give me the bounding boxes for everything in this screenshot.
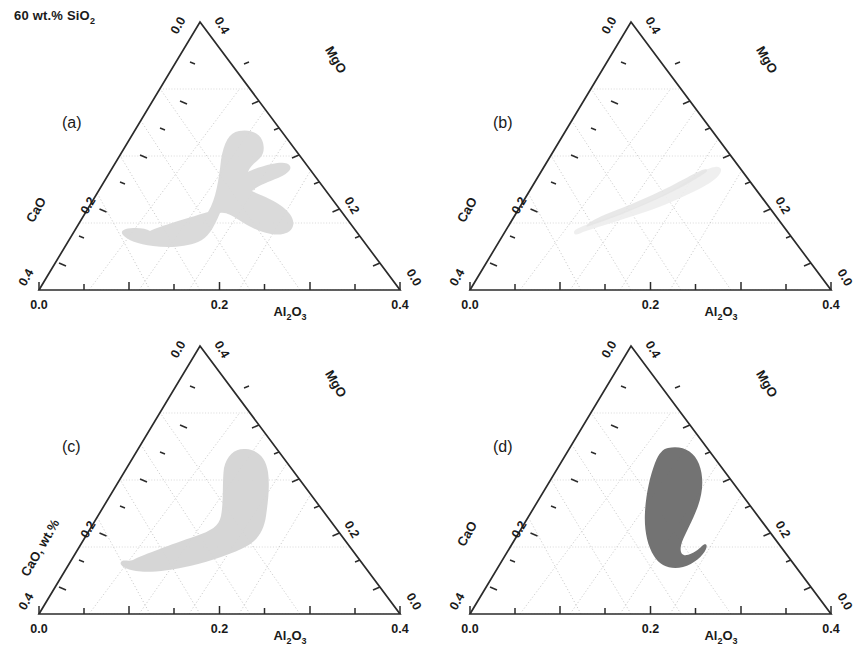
- bottom-axis-label-d: Al2O3: [704, 628, 737, 646]
- left-corner-value-c: 0.4: [16, 590, 37, 612]
- right-corner-value-a: 0.0: [403, 267, 424, 289]
- bottom-tick-0-b: 0.0: [461, 298, 478, 312]
- right-tick-label-d: 0.2: [772, 519, 793, 541]
- bottom-ticks-a: [39, 282, 400, 290]
- composition-field-b: [574, 167, 721, 235]
- left-tick-label-c: 0.2: [78, 518, 99, 540]
- right-axis-label-c: MgO: [322, 367, 349, 400]
- right-corner-value-d: 0.0: [834, 591, 855, 613]
- grid-lines-b: [472, 89, 832, 290]
- panel-label-b: (b): [493, 114, 513, 131]
- bottom-tick-1-a: 0.2: [211, 298, 228, 312]
- bottom-tick-0-d: 0.0: [461, 622, 478, 636]
- bottom-ticks-b: [470, 282, 831, 290]
- left-ticks-d: [490, 386, 626, 590]
- bottom-tick-1-c: 0.2: [211, 622, 228, 636]
- ternary-plot-a: (a) 0.0 0.4 0.4 0.0 0.2 0.2 CaO MgO 0.0 …: [0, 0, 430, 324]
- left-axis-label-b: CaO: [454, 194, 480, 225]
- left-axis-label-a: CaO: [23, 194, 49, 225]
- bottom-tick-2-b: 0.4: [822, 298, 839, 312]
- right-corner-value-c: 0.0: [403, 591, 424, 613]
- left-tick-label-b: 0.2: [509, 194, 530, 216]
- bottom-axis-label-b: Al2O3: [704, 304, 737, 322]
- bottom-tick-2-c: 0.4: [391, 622, 408, 636]
- left-axis-label-d: CaO: [454, 518, 480, 549]
- panel-label-a: (a): [62, 114, 82, 131]
- ternary-plot-c: (c) 0.0 0.4 0.4 0.0 0.2 0.2 CaO, wt.% Mg…: [0, 324, 430, 648]
- left-corner-value-a: 0.4: [16, 266, 37, 288]
- bottom-tick-2-d: 0.4: [822, 622, 839, 636]
- apex-right-value-b: 0.4: [642, 15, 663, 37]
- left-tick-label-a: 0.2: [78, 194, 99, 216]
- panel-b: (b) 0.0 0.4 0.4 0.0 0.2 0.2 CaO MgO 0.0 …: [431, 0, 861, 324]
- apex-left-value-a: 0.0: [168, 14, 189, 36]
- bottom-tick-2-a: 0.4: [391, 298, 408, 312]
- apex-right-value-a: 0.4: [211, 15, 232, 37]
- ternary-plot-b: (b) 0.0 0.4 0.4 0.0 0.2 0.2 CaO MgO 0.0 …: [431, 0, 861, 324]
- left-corner-value-b: 0.4: [447, 266, 468, 288]
- panel-label-c: (c): [62, 438, 81, 455]
- bottom-axis-label-c: Al2O3: [273, 628, 306, 646]
- grid-lines-c: [41, 413, 401, 614]
- composition-field-d: [645, 447, 707, 568]
- bottom-axis-label-a: Al2O3: [273, 304, 306, 322]
- apex-right-value-d: 0.4: [642, 339, 663, 361]
- bottom-tick-1-d: 0.2: [642, 622, 659, 636]
- ternary-plot-d: (d) 0.0 0.4 0.4 0.0 0.2 0.2 CaO MgO 0.0 …: [431, 324, 861, 648]
- left-ticks-b: [490, 62, 626, 266]
- bottom-tick-0-c: 0.0: [30, 622, 47, 636]
- panel-label-d: (d): [493, 438, 513, 455]
- right-axis-label-d: MgO: [753, 367, 780, 400]
- right-axis-label-b: MgO: [753, 43, 780, 76]
- right-tick-label-c: 0.2: [341, 519, 362, 541]
- right-corner-value-b: 0.0: [834, 267, 855, 289]
- panel-d: (d) 0.0 0.4 0.4 0.0 0.2 0.2 CaO MgO 0.0 …: [431, 324, 861, 648]
- left-corner-value-d: 0.4: [447, 590, 468, 612]
- bottom-ticks-d: [470, 606, 831, 614]
- panel-a: (a) 0.0 0.4 0.4 0.0 0.2 0.2 CaO MgO 0.0 …: [0, 0, 430, 324]
- apex-left-value-c: 0.0: [168, 338, 189, 360]
- panel-c: (c) 0.0 0.4 0.4 0.0 0.2 0.2 CaO, wt.% Mg…: [0, 324, 430, 648]
- bottom-tick-0-a: 0.0: [30, 298, 47, 312]
- apex-left-value-b: 0.0: [599, 14, 620, 36]
- bottom-tick-1-b: 0.2: [642, 298, 659, 312]
- right-axis-label-a: MgO: [322, 43, 349, 76]
- right-tick-label-b: 0.2: [772, 195, 793, 217]
- left-tick-label-d: 0.2: [509, 518, 530, 540]
- composition-field-a: [122, 130, 294, 246]
- apex-left-value-d: 0.0: [599, 338, 620, 360]
- left-axis-label-c: CaO, wt.%: [18, 516, 63, 579]
- apex-right-value-c: 0.4: [211, 339, 232, 361]
- bottom-ticks-c: [39, 606, 400, 614]
- figure-ternary-diagrams: 60 wt.% SiO2: [0, 0, 861, 648]
- right-tick-label-a: 0.2: [341, 195, 362, 217]
- right-ticks-a: [244, 62, 380, 266]
- composition-field-c: [121, 449, 269, 572]
- right-ticks-b: [675, 62, 811, 266]
